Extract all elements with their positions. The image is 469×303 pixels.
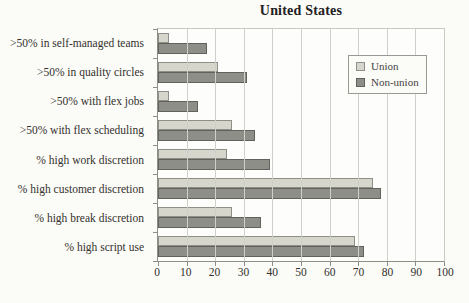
bar-union [158, 120, 232, 130]
bar-union [158, 207, 232, 217]
y-tick-mark [153, 29, 157, 30]
bar-union [158, 149, 227, 159]
bar-non-union [158, 159, 270, 170]
y-tick-mark [153, 58, 157, 59]
category-axis-labels: >50% in self-managed teams>50% in qualit… [0, 28, 151, 262]
y-tick-mark [153, 116, 157, 117]
gridline [215, 29, 216, 261]
gridline [301, 29, 302, 261]
bar-non-union [158, 43, 207, 54]
y-tick-mark [153, 232, 157, 233]
bar-non-union [158, 130, 255, 141]
chart-title: United States [157, 3, 445, 19]
bar-union [158, 62, 218, 72]
bar-non-union [158, 217, 261, 228]
legend-label-union: Union [371, 60, 399, 72]
y-tick-mark [153, 261, 157, 262]
category-label: % high customer discretion [0, 174, 151, 203]
union-swatch-icon [356, 62, 365, 71]
bar-non-union [158, 72, 247, 83]
category-label: % high script use [0, 233, 151, 262]
non-union-swatch-icon [356, 78, 365, 87]
legend-label-non-union: Non-union [371, 76, 419, 88]
bar-non-union [158, 188, 381, 199]
category-label: % high work discretion [0, 145, 151, 174]
category-label: >50% with flex jobs [0, 87, 151, 116]
bar-union [158, 91, 169, 101]
gridline [244, 29, 245, 261]
x-tick-label: 100 [428, 266, 462, 278]
legend-entry-non-union: Non-union [356, 76, 421, 88]
category-label: % high break discretion [0, 204, 151, 233]
x-axis-labels: 0102030405060708090100 [157, 266, 445, 282]
y-tick-mark [153, 145, 157, 146]
category-label: >50% in self-managed teams [0, 28, 151, 57]
gridline [187, 29, 188, 261]
bar-union [158, 178, 373, 188]
legend-entry-union: Union [356, 60, 421, 72]
bar-union [158, 236, 355, 246]
y-tick-mark [153, 174, 157, 175]
gridline [330, 29, 331, 261]
category-label: >50% with flex scheduling [0, 116, 151, 145]
legend: Union Non-union [348, 55, 427, 94]
y-tick-mark [153, 203, 157, 204]
gridline [272, 29, 273, 261]
bar-union [158, 33, 169, 43]
figure: United States >50% in self-managed teams… [0, 0, 469, 303]
bar-non-union [158, 246, 364, 257]
category-label: >50% in quality circles [0, 57, 151, 86]
y-tick-mark [153, 87, 157, 88]
bar-non-union [158, 101, 198, 112]
